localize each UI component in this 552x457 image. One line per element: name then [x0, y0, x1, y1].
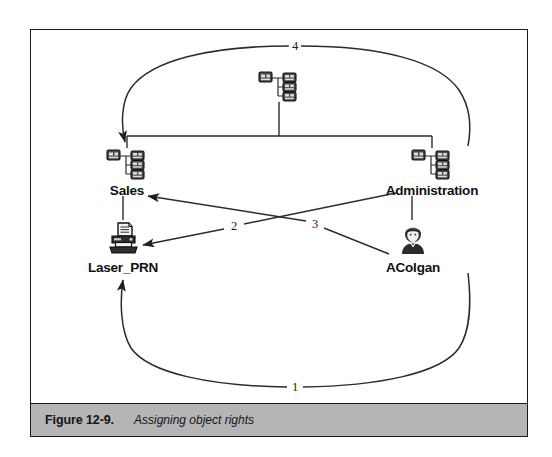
node-sales-label: Sales — [110, 183, 144, 198]
figure-caption-label: Figure 12-9. — [45, 413, 114, 427]
container-tree-icon — [410, 148, 454, 180]
printer-icon — [105, 221, 141, 257]
edge-3-path-b — [148, 196, 306, 221]
node-root-container[interactable] — [199, 70, 359, 105]
container-tree-icon — [105, 148, 149, 180]
node-sales[interactable]: Sales — [47, 148, 207, 198]
edge-label-1: 1 — [289, 381, 301, 394]
user-icon — [395, 221, 431, 257]
edge-1-arc-right — [303, 273, 470, 387]
edge-label-3: 3 — [309, 218, 321, 231]
container-tree-icon — [257, 70, 301, 102]
edge-1-path — [121, 280, 287, 387]
figure-caption-bar: Figure 12-9. Assigning object rights — [31, 403, 527, 436]
node-administration[interactable]: Administration — [352, 148, 512, 198]
figure-container: Sales — [0, 0, 552, 457]
diagram-canvas: Sales — [31, 30, 527, 403]
node-acolgan-label: AColgan — [386, 260, 440, 275]
edge-label-2: 2 — [228, 220, 240, 233]
edge-label-4: 4 — [289, 40, 301, 53]
figure-caption-text: Assigning object rights — [134, 413, 254, 427]
node-administration-label: Administration — [386, 183, 478, 198]
node-laser-prn[interactable]: Laser_PRN — [43, 221, 203, 275]
node-acolgan[interactable]: AColgan — [333, 221, 493, 275]
node-laser-prn-label: Laser_PRN — [88, 260, 158, 275]
